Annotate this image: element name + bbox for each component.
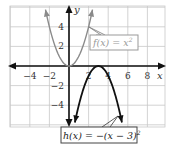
y-tick-label: 4 (58, 22, 64, 32)
h-label-callout: h(x) = −(x − 3)2 (61, 116, 141, 143)
f-curve-left-arrow-icon (44, 10, 50, 17)
f-curve-right-arrow-icon (88, 10, 94, 17)
y-tick-label: −2 (51, 81, 64, 91)
svg-text:h(x) = −(x − 3)2: h(x) = −(x − 3)2 (63, 129, 141, 141)
f-label-callout: f(x) = x2 (89, 27, 138, 50)
x-axis-left-arrow-icon (8, 63, 16, 70)
y-axis-down-arrow-icon (66, 119, 73, 127)
faded-caption (6, 150, 126, 156)
h-label-exponent: 2 (136, 129, 141, 136)
function-graph: −4−22468 42−2−4 x y f(x) = x2 h(x) = −(x… (0, 0, 174, 159)
y-axis-label: y (73, 4, 80, 15)
x-tick-label: −2 (43, 71, 56, 81)
x-tick-label: 6 (125, 71, 131, 81)
h-label-text: h(x) = −(x − 3) (63, 130, 137, 141)
x-axis-label: x (157, 70, 163, 81)
y-tick-label: −4 (51, 100, 65, 110)
f-label-exponent: 2 (128, 36, 133, 43)
h-curve (75, 66, 122, 122)
svg-text:f(x) = x2: f(x) = x2 (92, 36, 133, 48)
x-tick-label: 8 (145, 71, 151, 81)
x-tick-label: −4 (23, 71, 37, 81)
f-label-text: f(x) = x (92, 37, 129, 48)
y-tick-label: 2 (58, 41, 64, 51)
x-axis (8, 63, 166, 70)
